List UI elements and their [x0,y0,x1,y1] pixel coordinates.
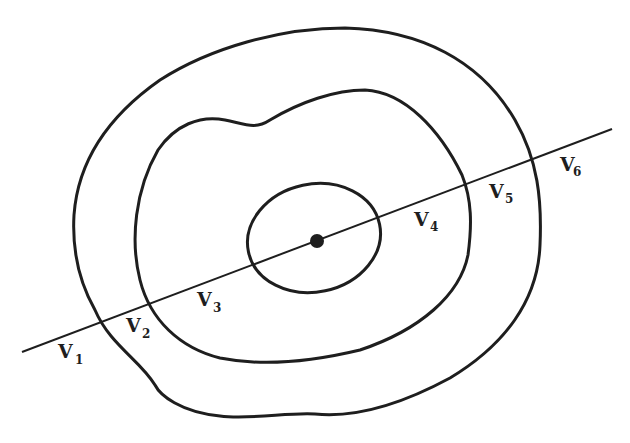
label-v5: V 5 [488,180,513,206]
label-v1: V 1 [57,340,83,367]
svg-text:6: 6 [573,165,581,179]
center-point [310,234,324,248]
label-v3: V 3 [196,288,221,315]
svg-text:1: 1 [75,353,83,367]
svg-text:V: V [125,314,142,336]
label-v2: V 2 [125,314,150,341]
label-v4: V 4 [413,208,438,234]
svg-text:V: V [413,208,430,230]
svg-text:5: 5 [505,192,513,206]
svg-text:3: 3 [213,301,221,315]
svg-text:4: 4 [430,220,438,234]
svg-text:V: V [196,288,213,310]
svg-text:V: V [488,180,505,202]
contour-diagram: V 1 V 2 V 3 V 4 V 5 V 6 [0,0,630,443]
svg-text:2: 2 [142,327,150,341]
svg-text:V: V [57,340,74,362]
label-v6: V 6 [559,153,581,179]
